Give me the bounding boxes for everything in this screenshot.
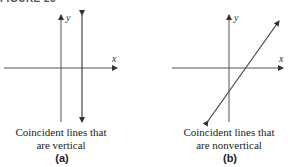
caption-line: are nonvertical — [164, 139, 288, 152]
caption-line: Coincident lines that — [164, 126, 288, 139]
panel-a-caption: Coincident lines that are vertical — [0, 126, 126, 152]
caption-line: Coincident lines that — [0, 126, 126, 139]
panel-b-caption: Coincident lines that are nonvertical — [164, 126, 288, 152]
panel-b-label: (b) — [210, 152, 250, 164]
coincident-nonvertical-line — [208, 21, 279, 121]
y-axis-label: y — [233, 12, 239, 23]
panel-a-graph: x y — [4, 12, 117, 122]
x-axis-label: x — [111, 53, 117, 64]
caption-line: are vertical — [0, 139, 126, 152]
y-axis-label: y — [65, 12, 71, 23]
x-axis-label: x — [278, 53, 284, 64]
panel-a-label: (a) — [42, 152, 82, 164]
panel-b-graph: x y — [172, 12, 284, 122]
